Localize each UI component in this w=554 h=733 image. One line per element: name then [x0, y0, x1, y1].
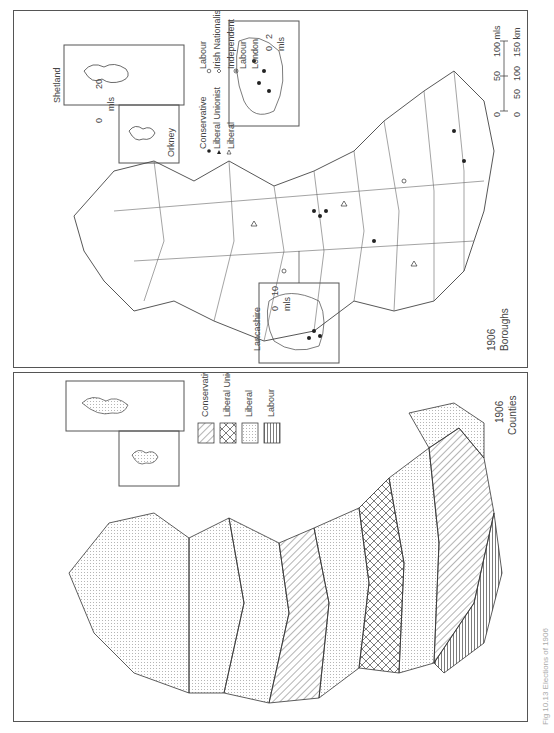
legend-label-labour-2: Labour [238, 41, 248, 69]
scale-mls-100: 100 mls [492, 25, 502, 57]
figure-caption: Fig 10.13 Elections of 1906 [541, 628, 550, 725]
swatch-liberal [242, 423, 258, 443]
counties-legend-liberal: Liberal [244, 390, 254, 417]
scale-km-50: 50 [512, 89, 522, 99]
boroughs-map-canvas [14, 11, 528, 368]
county-regions [69, 403, 502, 703]
lancashire-scale-max: 10 [270, 286, 280, 296]
lancashire-scale-unit: mls [282, 297, 292, 311]
lancashire-scale-min: 0 [270, 306, 280, 311]
legend-label-independent: Independent [226, 19, 236, 69]
scale-km-100: 100 [512, 66, 522, 81]
swatch-labour [264, 423, 280, 443]
london-scale-unit: mls [276, 37, 286, 51]
shetland-inset-frame [64, 45, 184, 105]
orkney-scale-min: 0 [94, 118, 104, 123]
counties-map-canvas [14, 373, 528, 722]
lancashire-label: Lancashire [252, 307, 262, 351]
scale-mls-50: 50 [492, 71, 502, 81]
orkney-islands [129, 126, 155, 140]
counties-title: Counties [507, 396, 518, 435]
orkney-scale-max: 20 [94, 79, 104, 89]
counties-map-panel: Conservative Liberal Unionist Liberal La… [13, 372, 528, 722]
orkney-label: Orkney [166, 128, 176, 157]
scale-km-0: 0 [512, 112, 522, 117]
boroughs-map-panel: Conservative Liberal Unionist Liberal La… [13, 10, 528, 368]
swatch-liberal-unionist [220, 423, 236, 443]
legend-label-liberal-unionist: Liberal Unionist [212, 87, 222, 149]
boroughs-year: 1906 [486, 329, 497, 351]
counties-legend-labour: Labour [266, 389, 276, 417]
swatch-conservative [198, 423, 214, 443]
counties-legend-conservative: Conservative [200, 372, 210, 417]
counties-legend-swatches [198, 423, 280, 443]
legend-label-liberal: Liberal [226, 122, 236, 149]
scale-mls-0: 0 [492, 112, 502, 117]
orkney-scale-unit: mls [106, 97, 116, 111]
counties-legend-liberal-unionist: Liberal Unionist [222, 372, 232, 417]
legend-label-london: London [250, 39, 260, 69]
london-scale-min: 0 [264, 46, 274, 51]
scale-km-150: 150 km [512, 27, 522, 57]
legend-label-labour: Labour [198, 41, 208, 69]
shetland-islands [84, 64, 128, 82]
legend-label-irish-nationalist: Irish Nationalist [212, 10, 222, 69]
legend-label-conservative: Conservative [198, 96, 208, 149]
shetland-label: Shetland [52, 67, 62, 103]
boroughs-title: Boroughs [499, 308, 510, 351]
counties-year: 1906 [494, 401, 505, 423]
london-scale-max: 2 [264, 34, 274, 39]
